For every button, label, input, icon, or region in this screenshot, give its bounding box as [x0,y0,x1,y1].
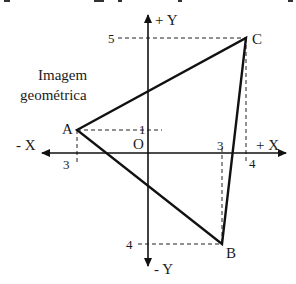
tick-x-3: 3 [63,157,70,172]
tick-x4: 4 [249,156,256,171]
x-positive-label: + X [256,137,279,153]
tick-x3: 3 [217,138,224,153]
y-negative-label: - Y [154,261,173,277]
clipped-top-text [4,0,293,2]
origin-label: O [133,136,144,152]
axes [42,15,286,266]
diagram-caption-line2: geométrica [20,87,87,103]
point-b-label: B [226,245,236,261]
x-negative-label: - X [16,137,36,153]
point-a-label: A [62,121,73,137]
geometric-diagram: Imagem geométrica + Y - Y + X - X O A B … [0,0,296,284]
tick-y5: 5 [108,31,115,46]
tick-y-4: 4 [126,237,133,252]
diagram-caption-line1: Imagem [38,67,87,83]
point-c-label: C [252,31,262,47]
tick-y1: 1 [139,122,146,137]
y-positive-label: + Y [155,12,178,28]
